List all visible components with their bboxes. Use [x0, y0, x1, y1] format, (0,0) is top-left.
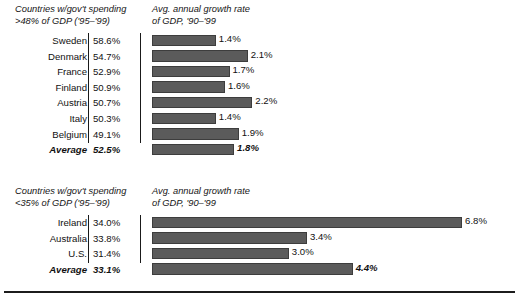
growth-bar-container: [152, 50, 248, 61]
growth-bar-container: [152, 81, 225, 92]
spending-share-value: 33.1%: [93, 263, 137, 276]
country-label: Belgium: [52, 128, 87, 141]
country-label: Australia: [50, 232, 87, 245]
high-spending-rows: Sweden58.6%1.4%Denmark54.7%2.1%France52.…: [0, 33, 519, 158]
country-row: Finland50.9%1.6%: [0, 80, 519, 96]
growth-bar-container: [152, 66, 230, 77]
growth-value-label: 4.4%: [356, 262, 378, 274]
chart-panel: Countries w/gov't spending >48% of GDP (…: [0, 0, 519, 305]
growth-value-label: 1.7%: [233, 64, 255, 76]
country-row: Denmark54.7%2.1%: [0, 49, 519, 65]
growth-value-label: 3.0%: [292, 246, 314, 258]
average-row: Average33.1%4.4%: [0, 262, 519, 278]
spending-share-value: 50.7%: [93, 96, 137, 109]
growth-value-label: 1.9%: [242, 127, 264, 139]
country-label: France: [57, 65, 87, 78]
spending-share-value: 52.5%: [93, 143, 137, 156]
country-label: Finland: [56, 81, 87, 94]
section-high-left-header: Countries w/gov't spending >48% of GDP (…: [15, 4, 165, 27]
growth-bar-container: [152, 217, 462, 228]
growth-bar-container: [152, 97, 252, 108]
country-label: Denmark: [48, 50, 87, 63]
growth-value-label: 2.1%: [251, 49, 273, 61]
growth-value-label: 6.8%: [465, 215, 487, 227]
bottom-divider: [4, 291, 515, 293]
average-row: Average52.5%1.8%: [0, 142, 519, 158]
spending-share-value: 54.7%: [93, 50, 137, 63]
country-row: Italy50.3%1.4%: [0, 111, 519, 127]
growth-bar-container: [152, 113, 216, 124]
spending-share-value: 31.4%: [93, 247, 137, 260]
country-row: Ireland34.0%6.8%: [0, 215, 519, 231]
section-low-left-header: Countries w/gov't spending <35% of GDP (…: [15, 186, 165, 209]
growth-bar-container: [152, 263, 353, 274]
country-row: Australia33.8%3.4%: [0, 231, 519, 247]
country-row: Austria50.7%2.2%: [0, 95, 519, 111]
country-label: Average: [49, 263, 87, 276]
growth-bar-container: [152, 128, 239, 139]
growth-value-label: 2.2%: [255, 95, 277, 107]
low-spending-rows: Ireland34.0%6.8%Australia33.8%3.4%U.S.31…: [0, 215, 519, 277]
country-label: Average: [49, 143, 87, 156]
growth-bar: [152, 66, 230, 77]
growth-bar: [152, 35, 216, 46]
growth-bar-container: [152, 144, 234, 155]
growth-bar: [152, 144, 234, 155]
growth-bar: [152, 81, 225, 92]
country-label: U.S.: [68, 247, 87, 260]
spending-share-value: 49.1%: [93, 128, 137, 141]
growth-bar: [152, 248, 289, 259]
growth-value-label: 1.8%: [237, 142, 259, 154]
growth-bar-container: [152, 248, 289, 259]
country-row: France52.9%1.7%: [0, 64, 519, 80]
country-row: Belgium49.1%1.9%: [0, 127, 519, 143]
growth-value-label: 3.4%: [310, 231, 332, 243]
country-label: Austria: [57, 96, 87, 109]
country-label: Italy: [69, 112, 87, 125]
country-row: Sweden58.6%1.4%: [0, 33, 519, 49]
growth-bar: [152, 263, 353, 274]
spending-share-value: 33.8%: [93, 232, 137, 245]
growth-bar: [152, 97, 252, 108]
country-label: Sweden: [52, 34, 87, 47]
spending-share-value: 58.6%: [93, 34, 137, 47]
growth-value-label: 1.6%: [228, 80, 250, 92]
growth-bar: [152, 217, 462, 228]
spending-share-value: 50.3%: [93, 112, 137, 125]
growth-bar-container: [152, 232, 307, 243]
spending-share-value: 50.9%: [93, 81, 137, 94]
growth-bar: [152, 113, 216, 124]
spending-share-value: 34.0%: [93, 216, 137, 229]
growth-bar: [152, 232, 307, 243]
spending-share-value: 52.9%: [93, 65, 137, 78]
section-low-right-header: Avg. annual growth rate of GDP, '90–'99: [152, 186, 352, 209]
growth-bar-container: [152, 35, 216, 46]
growth-bar: [152, 128, 239, 139]
section-high-right-header: Avg. annual growth rate of GDP, '90–'99: [152, 4, 352, 27]
country-label: Ireland: [58, 216, 87, 229]
growth-value-label: 1.4%: [219, 33, 241, 45]
growth-value-label: 1.4%: [219, 111, 241, 123]
growth-bar: [152, 50, 248, 61]
country-row: U.S.31.4%3.0%: [0, 246, 519, 262]
